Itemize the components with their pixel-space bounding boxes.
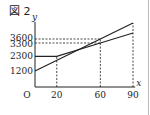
series-line (35, 33, 133, 56)
y-tick-label: 1200 (10, 66, 33, 76)
y-tick-label: 2300 (10, 51, 33, 61)
y-tick-label: 3600 (10, 33, 33, 43)
x-axis-label: x (136, 78, 141, 88)
x-tick-label: 60 (95, 90, 107, 100)
line-chart: 1200230033003600206090Oxy (0, 0, 150, 115)
origin-label: O (23, 90, 30, 100)
x-tick-label: 20 (51, 90, 63, 100)
x-tick-label: 90 (127, 90, 139, 100)
y-axis-label: y (31, 12, 38, 22)
series-line (35, 23, 133, 71)
